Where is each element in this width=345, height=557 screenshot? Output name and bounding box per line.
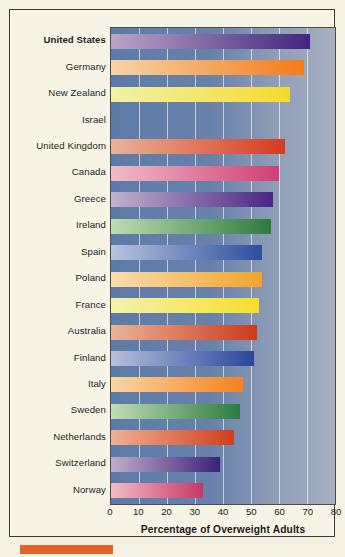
- chart-panel: United StatesGermanyNew ZealandIsraelUni…: [9, 9, 335, 537]
- category-label-poland: Poland: [20, 272, 106, 283]
- x-tick-label-40: 40: [218, 506, 229, 517]
- category-label-ireland: Ireland: [20, 219, 106, 230]
- x-tick-label-10: 10: [133, 506, 144, 517]
- bar-greece: [111, 192, 273, 207]
- bar-israel: [111, 113, 290, 128]
- category-label-australia: Australia: [20, 325, 106, 336]
- bar-united-states: [111, 34, 310, 49]
- bar-row: [111, 81, 335, 107]
- bar-new-zealand: [111, 87, 290, 102]
- category-label-france: France: [20, 299, 106, 310]
- bar-spain: [111, 245, 262, 260]
- x-tick-label-30: 30: [189, 506, 200, 517]
- bar-netherlands: [111, 430, 234, 445]
- bar-france: [111, 298, 259, 313]
- x-tick-label-70: 70: [302, 506, 313, 517]
- bar-row: [111, 28, 335, 54]
- bar-row: [111, 187, 335, 213]
- category-label-united-kingdom: United Kingdom: [20, 140, 106, 151]
- bar-australia: [111, 325, 257, 340]
- bar-row: [111, 160, 335, 186]
- bar-united-kingdom: [111, 139, 285, 154]
- bar-row: [111, 398, 335, 424]
- bar-row: [111, 372, 335, 398]
- bar-germany: [111, 60, 304, 75]
- bar-row: [111, 319, 335, 345]
- category-axis-labels: United StatesGermanyNew ZealandIsraelUni…: [20, 27, 106, 505]
- gridline-80: [335, 28, 336, 504]
- bar-row: [111, 240, 335, 266]
- category-label-switzerland: Switzerland: [20, 457, 106, 468]
- bar-poland: [111, 272, 262, 287]
- bar-ireland: [111, 219, 271, 234]
- bar-canada: [111, 166, 279, 181]
- bar-switzerland: [111, 457, 220, 472]
- category-label-sweden: Sweden: [20, 404, 106, 415]
- x-tick-label-60: 60: [274, 506, 285, 517]
- bottom-accent-rule: [20, 545, 113, 554]
- bar-row: [111, 451, 335, 477]
- category-label-germany: Germany: [20, 61, 106, 72]
- bar-row: [111, 292, 335, 318]
- category-label-new-zealand: New Zealand: [20, 87, 106, 98]
- category-label-united-states: United States: [20, 34, 106, 45]
- bar-sweden: [111, 404, 240, 419]
- bar-row: [111, 478, 335, 504]
- x-tick-label-50: 50: [246, 506, 257, 517]
- bar-finland: [111, 351, 254, 366]
- bar-italy: [111, 377, 243, 392]
- category-label-italy: Italy: [20, 378, 106, 389]
- category-label-israel: Israel: [20, 114, 106, 125]
- category-label-canada: Canada: [20, 166, 106, 177]
- plot-area: [110, 27, 336, 505]
- bar-row: [111, 266, 335, 292]
- bar-norway: [111, 483, 203, 498]
- category-label-finland: Finland: [20, 352, 106, 363]
- figure-root: United StatesGermanyNew ZealandIsraelUni…: [0, 0, 345, 557]
- bar-row: [111, 107, 335, 133]
- category-label-spain: Spain: [20, 246, 106, 257]
- bar-row: [111, 134, 335, 160]
- bar-row: [111, 425, 335, 451]
- category-label-netherlands: Netherlands: [20, 431, 106, 442]
- x-axis-ticks: 01020304050607080: [110, 506, 336, 522]
- x-tick-label-0: 0: [107, 506, 112, 517]
- x-tick-label-20: 20: [161, 506, 172, 517]
- bar-row: [111, 213, 335, 239]
- category-label-greece: Greece: [20, 193, 106, 204]
- x-tick-label-80: 80: [331, 506, 342, 517]
- bar-row: [111, 54, 335, 80]
- x-axis-title: Percentage of Overweight Adults: [110, 524, 336, 535]
- category-label-norway: Norway: [20, 484, 106, 495]
- bar-row: [111, 345, 335, 371]
